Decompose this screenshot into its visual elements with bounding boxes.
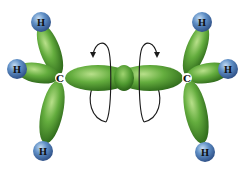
label-h-right-bottom: H	[201, 148, 210, 158]
label-h-right-top: H	[198, 18, 207, 28]
arrow-left-lower	[90, 88, 106, 122]
label-h-right-side: H	[224, 65, 233, 75]
label-h-left-top: H	[37, 18, 46, 28]
sigma-bond	[65, 65, 183, 91]
arrowhead-left-icon	[90, 52, 96, 58]
label-h-left-bottom: H	[39, 147, 48, 157]
ethane-rotation-diagram: C C H H H H H H	[0, 0, 248, 175]
arrowhead-right-icon	[154, 52, 160, 58]
label-c-right: C	[183, 73, 191, 84]
orbital-right-bottom	[179, 78, 214, 145]
sigma-overlap	[114, 65, 134, 91]
arrow-heads	[90, 52, 160, 58]
rotation-arrows-back	[90, 88, 160, 122]
label-c-left: C	[56, 73, 64, 84]
label-h-left-side: H	[13, 65, 22, 75]
arrow-right-lower	[144, 88, 160, 122]
orbital-left-bottom	[35, 78, 70, 145]
molecule-svg: C C H H H H H H	[0, 0, 248, 175]
